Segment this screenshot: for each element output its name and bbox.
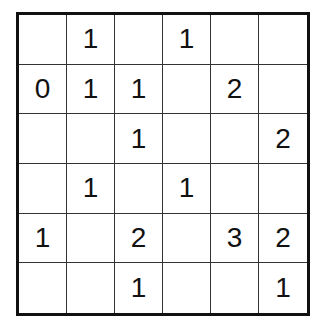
grid-cell-r3-c4[interactable] [211,164,259,214]
grid-cell-r2-c2[interactable]: 1 [115,114,163,164]
grid-cell-r3-c3[interactable]: 1 [163,164,211,214]
grid-cell-r5-c5[interactable]: 1 [259,263,307,313]
grid-cell-r4-c4[interactable]: 3 [211,214,259,264]
grid-cell-r1-c1[interactable]: 1 [67,65,115,115]
grid-cell-r1-c0[interactable]: 0 [19,65,67,115]
puzzle-grid: 1101121211123211 [16,12,310,316]
grid-cell-r4-c2[interactable]: 2 [115,214,163,264]
grid-cell-r5-c3[interactable] [163,263,211,313]
grid-cell-r4-c0[interactable]: 1 [19,214,67,264]
grid-cell-r4-c3[interactable] [163,214,211,264]
grid-cell-r0-c0[interactable] [19,15,67,65]
grid-cell-r3-c2[interactable] [115,164,163,214]
grid-cell-r2-c1[interactable] [67,114,115,164]
grid-cell-r2-c0[interactable] [19,114,67,164]
grid-cell-r3-c5[interactable] [259,164,307,214]
grid-cell-r3-c0[interactable] [19,164,67,214]
grid-cell-r2-c3[interactable] [163,114,211,164]
grid-cell-r5-c4[interactable] [211,263,259,313]
grid-cell-r5-c2[interactable]: 1 [115,263,163,313]
grid-cell-r4-c5[interactable]: 2 [259,214,307,264]
grid-cell-r0-c5[interactable] [259,15,307,65]
grid-cell-r5-c1[interactable] [67,263,115,313]
grid-cell-r4-c1[interactable] [67,214,115,264]
grid-cell-r0-c4[interactable] [211,15,259,65]
grid-cell-r1-c3[interactable] [163,65,211,115]
grid-cell-r0-c2[interactable] [115,15,163,65]
grid-cell-r1-c4[interactable]: 2 [211,65,259,115]
grid-cell-r1-c5[interactable] [259,65,307,115]
grid-cell-r3-c1[interactable]: 1 [67,164,115,214]
grid-cell-r0-c3[interactable]: 1 [163,15,211,65]
grid-cell-r0-c1[interactable]: 1 [67,15,115,65]
grid-cell-r2-c4[interactable] [211,114,259,164]
grid-cell-r5-c0[interactable] [19,263,67,313]
grid-cell-r2-c5[interactable]: 2 [259,114,307,164]
grid-cell-r1-c2[interactable]: 1 [115,65,163,115]
